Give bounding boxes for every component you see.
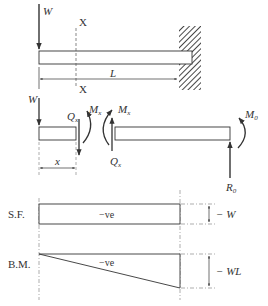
sf-row-label: S.F. xyxy=(8,208,25,220)
beam xyxy=(39,51,192,64)
free-body-diagram: W Qx Mx Mx Qx M0 R0 x xyxy=(28,93,258,195)
distance-label: x xyxy=(54,155,60,167)
bm-row-label: B.M. xyxy=(8,258,31,270)
beam-diagram-figure: W X X L W Qx Mx Mx Qx M0 R0 xyxy=(0,0,268,306)
cantilever-diagram: W X X L xyxy=(39,4,201,95)
reaction-moment-arrow-icon xyxy=(238,118,245,148)
moment-left-label: Mx xyxy=(88,103,102,117)
load-label: W xyxy=(43,5,53,17)
moment-left-arrow-icon xyxy=(83,111,91,143)
section-label-top: X xyxy=(79,16,87,28)
reaction-force-label: R0 xyxy=(225,181,237,195)
shear-right-label: Qx xyxy=(110,155,122,169)
left-segment xyxy=(39,127,76,140)
reaction-moment-label: M0 xyxy=(244,108,258,122)
shear-left-label: Qx xyxy=(67,110,79,124)
sf-bm-diagrams: S.F. −ve − W B.M. −ve − WL xyxy=(8,190,241,300)
sf-magnitude-label: − W xyxy=(216,208,236,220)
section-label-bottom: X xyxy=(79,83,87,95)
right-segment xyxy=(115,127,230,140)
moment-right-label: Mx xyxy=(117,103,131,117)
sf-sign-label: −ve xyxy=(99,209,115,220)
moment-right-arrow-icon xyxy=(103,110,112,145)
bm-sign-label: −ve xyxy=(99,257,115,268)
bm-magnitude-label: − WL xyxy=(216,265,241,277)
left-load-label: W xyxy=(28,93,38,105)
length-label: L xyxy=(109,67,116,79)
